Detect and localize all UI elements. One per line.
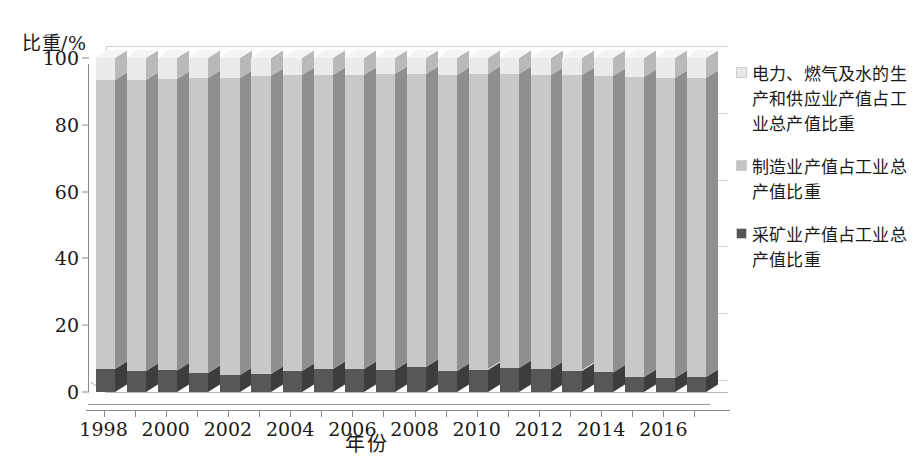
bar-column[interactable]: [376, 58, 395, 392]
bar-segment[interactable]: [189, 78, 208, 373]
bar-segment[interactable]: [625, 77, 644, 377]
bar-column[interactable]: [127, 58, 146, 392]
bar-segment[interactable]: [314, 58, 333, 75]
bar-segment[interactable]: [656, 58, 675, 78]
bar-segment[interactable]: [531, 58, 550, 75]
bar-column[interactable]: [656, 58, 675, 392]
bar-segment[interactable]: [656, 378, 675, 392]
legend-item[interactable]: 采矿业产值占工业总产值比重: [736, 223, 912, 273]
bar-column[interactable]: [283, 58, 302, 392]
bar-segment[interactable]: [96, 58, 115, 80]
bar-segment[interactable]: [531, 75, 550, 369]
bar-segment[interactable]: [376, 58, 395, 74]
bar-segment[interactable]: [158, 370, 177, 392]
bar-segment[interactable]: [500, 74, 519, 368]
legend-item[interactable]: 电力、燃气及水的生产和供应业产值占工业总产值比重: [736, 62, 912, 137]
x-axis-tick-label: 2006: [328, 418, 376, 440]
bar-column[interactable]: [469, 58, 488, 392]
x-axis-tick-mark: [166, 410, 167, 417]
bar-segment[interactable]: [220, 78, 239, 375]
bar-column[interactable]: [438, 58, 457, 392]
bar-segment[interactable]: [96, 369, 115, 392]
bar-column[interactable]: [220, 58, 239, 392]
bar-segment[interactable]: [127, 58, 146, 80]
bar-column[interactable]: [96, 58, 115, 392]
bar-segment-front-face: [220, 78, 239, 375]
bar-column[interactable]: [625, 58, 644, 392]
bar-segment-side-face: [271, 69, 283, 374]
bar-segment-side-face: [146, 73, 158, 371]
bar-segment-front-face: [562, 58, 581, 75]
bar-segment[interactable]: [345, 75, 364, 369]
bar-column[interactable]: [158, 58, 177, 392]
bar-segment[interactable]: [407, 58, 426, 74]
bar-segment[interactable]: [656, 78, 675, 378]
x-axis-tick-mark: [508, 410, 509, 417]
bar-segment-front-face: [562, 371, 581, 392]
bar-segment[interactable]: [625, 58, 644, 77]
legend-swatch-icon: [736, 67, 747, 78]
bar-segment[interactable]: [283, 58, 302, 75]
bar-column[interactable]: [562, 58, 581, 392]
bar-segment[interactable]: [251, 374, 270, 392]
bar-segment[interactable]: [283, 371, 302, 392]
bar-segment[interactable]: [594, 58, 613, 76]
bar-segment[interactable]: [594, 372, 613, 392]
legend-label: 制造业产值占工业总产值比重: [752, 155, 912, 205]
bar-segment[interactable]: [345, 58, 364, 75]
bar-segment[interactable]: [531, 369, 550, 392]
bar-column[interactable]: [189, 58, 208, 392]
bar-segment[interactable]: [500, 368, 519, 392]
bar-segment[interactable]: [314, 75, 333, 369]
bar-segment[interactable]: [251, 76, 270, 374]
bar-segment[interactable]: [687, 58, 706, 78]
bar-segment[interactable]: [438, 371, 457, 392]
bar-segment[interactable]: [127, 80, 146, 371]
bar-segment-side-face: [177, 71, 189, 370]
bar-segment-front-face: [283, 371, 302, 392]
bar-column[interactable]: [251, 58, 270, 392]
bar-segment[interactable]: [687, 78, 706, 377]
bar-segment[interactable]: [438, 75, 457, 371]
bar-segment[interactable]: [469, 58, 488, 74]
bar-segment-front-face: [500, 58, 519, 74]
x-axis-tick-mark: [290, 410, 291, 417]
bar-segment[interactable]: [625, 377, 644, 392]
bar-segment[interactable]: [500, 58, 519, 74]
bar-column[interactable]: [407, 58, 426, 392]
bar-segment[interactable]: [562, 58, 581, 75]
bar-segment[interactable]: [345, 369, 364, 392]
bar-segment[interactable]: [407, 74, 426, 367]
bar-segment[interactable]: [562, 75, 581, 370]
bar-segment[interactable]: [376, 74, 395, 370]
bar-segment[interactable]: [687, 377, 706, 392]
bar-column[interactable]: [531, 58, 550, 392]
bar-segment[interactable]: [189, 373, 208, 392]
bar-segment[interactable]: [594, 76, 613, 373]
bar-column[interactable]: [594, 58, 613, 392]
bar-segment[interactable]: [376, 370, 395, 392]
bar-column[interactable]: [314, 58, 333, 392]
bar-segment[interactable]: [314, 369, 333, 392]
bar-column[interactable]: [345, 58, 364, 392]
x-axis-tick-mark: [415, 410, 416, 417]
bar-segment[interactable]: [438, 58, 457, 75]
bar-segment[interactable]: [407, 367, 426, 392]
bar-segment[interactable]: [562, 371, 581, 392]
bar-segment[interactable]: [220, 375, 239, 392]
bar-segment[interactable]: [96, 80, 115, 369]
bar-segment[interactable]: [283, 75, 302, 371]
bar-segment[interactable]: [189, 58, 208, 78]
bar-segment-front-face: [531, 58, 550, 75]
bar-segment-front-face: [158, 58, 177, 79]
bar-segment[interactable]: [251, 58, 270, 76]
bar-segment[interactable]: [469, 74, 488, 369]
bar-segment[interactable]: [158, 58, 177, 79]
bar-segment[interactable]: [158, 79, 177, 371]
bar-column[interactable]: [500, 58, 519, 392]
bar-segment[interactable]: [469, 370, 488, 392]
legend-item[interactable]: 制造业产值占工业总产值比重: [736, 155, 912, 205]
bar-segment[interactable]: [220, 58, 239, 78]
bar-segment[interactable]: [127, 371, 146, 392]
bar-column[interactable]: [687, 58, 706, 392]
